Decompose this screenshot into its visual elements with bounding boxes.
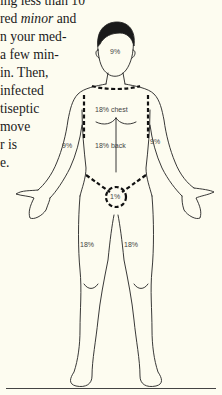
- label-left-arm: 9%: [150, 138, 160, 145]
- label-chest: 18% chest: [95, 106, 128, 113]
- label-head: 9%: [110, 48, 120, 55]
- label-back: 18% back: [95, 142, 126, 149]
- body-diagram: 9% 18% chest 18% back 9% 9% 1% 18% 18%: [0, 0, 222, 395]
- label-right-arm: 9%: [62, 142, 72, 149]
- horizontal-rule: [6, 388, 216, 389]
- label-groin: 1%: [110, 193, 120, 200]
- label-right-leg: 18%: [80, 241, 94, 248]
- label-left-leg: 18%: [124, 241, 138, 248]
